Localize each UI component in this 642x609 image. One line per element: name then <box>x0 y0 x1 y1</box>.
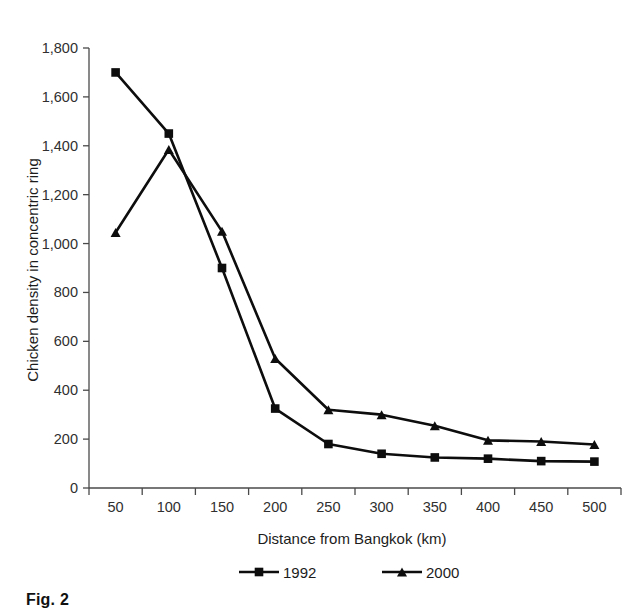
data-point-square <box>484 454 493 463</box>
data-point-triangle <box>164 145 174 154</box>
x-tick-label: 450 <box>529 499 553 515</box>
data-point-square <box>255 568 264 577</box>
data-point-square <box>165 129 174 138</box>
data-point-square <box>324 440 333 449</box>
chart-legend: 19922000 <box>239 564 459 581</box>
y-tick-label: 600 <box>54 333 78 349</box>
series-layer <box>111 68 600 466</box>
legend-label: 1992 <box>283 564 316 581</box>
series-1992 <box>111 68 598 466</box>
data-point-square <box>271 404 280 413</box>
x-axis-title: Distance from Bangkok (km) <box>257 530 446 547</box>
y-tick-label: 1,000 <box>42 236 78 252</box>
y-tick-label: 800 <box>54 284 78 300</box>
y-tick-label: 1,800 <box>42 40 78 56</box>
x-tick-label: 400 <box>476 499 500 515</box>
x-tick-label: 200 <box>263 499 287 515</box>
series-2000 <box>111 145 600 449</box>
series-line-1992 <box>116 72 595 461</box>
x-tick-label: 300 <box>369 499 393 515</box>
y-tick-label: 1,200 <box>42 187 78 203</box>
legend-item-1992: 1992 <box>239 564 316 581</box>
data-point-square <box>377 449 386 458</box>
legend-item-2000: 2000 <box>382 564 459 581</box>
series-line-2000 <box>116 149 595 444</box>
x-tick-label: 350 <box>423 499 447 515</box>
y-tick-label: 400 <box>54 382 78 398</box>
data-point-square <box>590 457 599 466</box>
y-tick-label: 1,600 <box>42 89 78 105</box>
data-point-square <box>111 68 120 77</box>
y-axis-title: Chicken density in concentric ring <box>24 158 41 381</box>
y-tick-label: 200 <box>54 431 78 447</box>
y-axis: 02004006008001,0001,2001,4001,6001,800 <box>42 40 89 496</box>
x-axis: 50100150200250300350400450500 <box>89 488 621 515</box>
x-tick-label: 500 <box>582 499 606 515</box>
x-tick-label: 150 <box>210 499 234 515</box>
y-tick-label: 0 <box>70 480 78 496</box>
x-tick-label: 50 <box>108 499 124 515</box>
y-tick-label: 1,400 <box>42 138 78 154</box>
data-point-triangle <box>270 354 280 363</box>
data-point-square <box>431 453 440 462</box>
legend-label: 2000 <box>426 564 459 581</box>
figure-caption: Fig. 2 <box>26 591 69 609</box>
data-point-square <box>218 264 227 273</box>
x-tick-label: 250 <box>316 499 340 515</box>
x-tick-label: 100 <box>157 499 181 515</box>
data-point-square <box>537 457 546 466</box>
